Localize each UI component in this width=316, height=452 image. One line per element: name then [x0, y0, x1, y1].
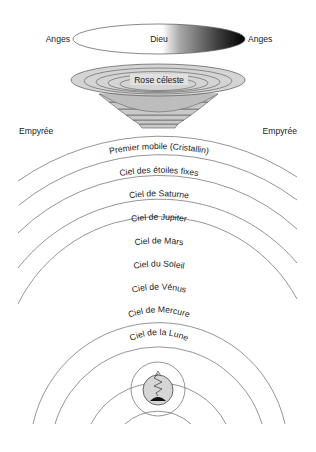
- sphere-label-saturn: Ciel de Saturne: [128, 188, 189, 200]
- sphere-label-mars: Ciel de Mars: [134, 235, 184, 247]
- sphere-label-fixed-stars: Ciel des étoiles fixes: [119, 165, 200, 178]
- empyrean-left-label: Empyrée: [19, 126, 54, 136]
- sphere-label-sun: Ciel du Soleil: [133, 258, 186, 270]
- sphere-label-jupiter: Ciel de Jupiter: [130, 212, 187, 224]
- angels-right-label: Anges: [248, 34, 272, 44]
- god-ellipse: Dieu: [73, 24, 245, 54]
- sphere-label-primum-mobile: Premier mobile (Cristallin): [108, 141, 210, 156]
- celestial-rose: Rose céleste: [71, 64, 245, 128]
- angels-left-label: Anges: [46, 34, 70, 44]
- rose-label: Rose céleste: [134, 75, 184, 85]
- empyrean-right-label: Empyrée: [263, 126, 298, 136]
- sphere-label-mercury: Ciel de Mercure: [127, 304, 192, 319]
- earth-with-purgatory-mountain-icon: [143, 371, 173, 405]
- dante-cosmology-diagram: Dieu Anges Anges Rose céleste Empyrée Em…: [0, 0, 316, 452]
- sphere-label-moon: Ciel de la Lune: [128, 327, 190, 343]
- god-label: Dieu: [150, 34, 168, 44]
- sphere-label-venus: Ciel de Vénus: [131, 282, 188, 295]
